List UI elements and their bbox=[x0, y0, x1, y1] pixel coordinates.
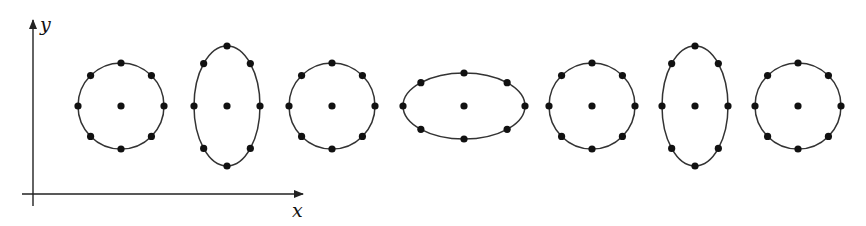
center-dot bbox=[223, 102, 230, 109]
center-dot bbox=[691, 102, 698, 109]
particle-dot bbox=[588, 145, 595, 152]
particle-dot bbox=[619, 133, 626, 140]
particle-dot bbox=[148, 72, 155, 79]
particle-dot bbox=[521, 102, 528, 109]
particle-dot bbox=[417, 126, 424, 133]
particle-dot bbox=[794, 59, 801, 66]
particle-dot bbox=[764, 133, 771, 140]
particle-dot bbox=[74, 102, 81, 109]
particle-dot bbox=[328, 145, 335, 152]
particle-dot bbox=[460, 69, 467, 76]
particle-dot bbox=[117, 59, 124, 66]
particle-dot bbox=[751, 102, 758, 109]
particle-dot bbox=[825, 72, 832, 79]
wave-deformation-diagram: x y bbox=[0, 0, 866, 226]
ellipse-vertical-1 bbox=[190, 42, 263, 169]
center-dot bbox=[794, 102, 801, 109]
particle-dot bbox=[417, 79, 424, 86]
particle-dot bbox=[359, 72, 366, 79]
ellipse-vertical-2 bbox=[658, 42, 731, 169]
particle-dot bbox=[371, 102, 378, 109]
particle-dot bbox=[359, 133, 366, 140]
particle-dot bbox=[658, 102, 665, 109]
particle-dot bbox=[825, 133, 832, 140]
particle-dot bbox=[328, 59, 335, 66]
particle-dot bbox=[504, 79, 511, 86]
particle-dot bbox=[117, 145, 124, 152]
particle-dot bbox=[794, 145, 801, 152]
particle-dot bbox=[256, 102, 263, 109]
particle-dot bbox=[504, 126, 511, 133]
particle-dot bbox=[190, 102, 197, 109]
particle-dot bbox=[298, 133, 305, 140]
particle-dot bbox=[247, 145, 254, 152]
center-dot bbox=[117, 102, 124, 109]
particle-dot bbox=[160, 102, 167, 109]
particle-dot bbox=[588, 59, 595, 66]
center-dot bbox=[328, 102, 335, 109]
particle-dot bbox=[200, 145, 207, 152]
particle-dot bbox=[724, 102, 731, 109]
particle-dot bbox=[298, 72, 305, 79]
particle-dot bbox=[558, 133, 565, 140]
particle-dot bbox=[668, 60, 675, 67]
circle-4 bbox=[751, 59, 844, 152]
particle-dot bbox=[200, 60, 207, 67]
x-axis-label: x bbox=[292, 199, 303, 221]
particle-dot bbox=[285, 102, 292, 109]
particle-dot bbox=[223, 42, 230, 49]
particle-dot bbox=[558, 72, 565, 79]
particle-dot bbox=[87, 133, 94, 140]
particle-dot bbox=[631, 102, 638, 109]
y-axis-label: y bbox=[39, 13, 51, 35]
particle-dot bbox=[715, 60, 722, 67]
particle-dot bbox=[691, 162, 698, 169]
center-dot bbox=[588, 102, 595, 109]
particle-dot bbox=[87, 72, 94, 79]
circle-3 bbox=[545, 59, 638, 152]
particle-dot bbox=[619, 72, 626, 79]
circle-1 bbox=[74, 59, 167, 152]
particle-dot bbox=[715, 145, 722, 152]
particle-dot bbox=[668, 145, 675, 152]
center-dot bbox=[460, 102, 467, 109]
particle-dot bbox=[223, 162, 230, 169]
particle-dot bbox=[148, 133, 155, 140]
particle-dot bbox=[764, 72, 771, 79]
particle-rings bbox=[74, 42, 844, 169]
particle-dot bbox=[691, 42, 698, 49]
particle-dot bbox=[247, 60, 254, 67]
particle-dot bbox=[837, 102, 844, 109]
particle-dot bbox=[545, 102, 552, 109]
circle-2 bbox=[285, 59, 378, 152]
particle-dot bbox=[399, 102, 406, 109]
particle-dot bbox=[460, 135, 467, 142]
ellipse-horizontal bbox=[399, 69, 528, 142]
